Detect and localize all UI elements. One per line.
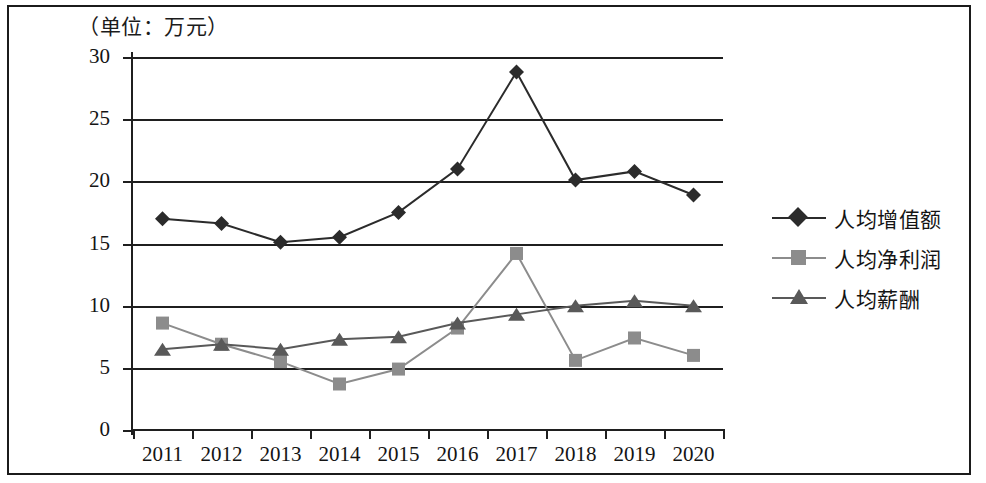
legend-symbol xyxy=(772,287,826,309)
x-axis-tick xyxy=(133,429,135,439)
x-axis-tick xyxy=(428,429,430,439)
x-axis-tick xyxy=(605,429,607,439)
x-axis-tick xyxy=(723,429,725,439)
y-axis-label: 20 xyxy=(70,170,110,191)
legend-symbol xyxy=(772,207,826,229)
legend-label: 人均增值额 xyxy=(826,203,942,233)
gridline xyxy=(133,57,723,59)
legend-item-2[interactable]: 人均净利润 xyxy=(772,238,962,278)
gridline xyxy=(133,119,723,121)
triangle-marker-icon xyxy=(790,289,808,304)
gridline xyxy=(133,181,723,183)
chart-figure: （单位：万元） 051015202530 2011201220132014201… xyxy=(0,0,986,483)
x-axis-tick xyxy=(546,429,548,439)
x-axis-tick xyxy=(487,429,489,439)
y-axis-label: 25 xyxy=(70,108,110,129)
y-axis-tick xyxy=(123,430,133,432)
y-axis-label: 15 xyxy=(70,233,110,254)
legend-symbol xyxy=(772,247,826,269)
diamond-marker-icon xyxy=(788,207,808,227)
legend-item-1[interactable]: 人均增值额 xyxy=(772,198,962,238)
chart-legend: 人均增值额人均净利润人均薪酬 xyxy=(772,198,962,318)
y-axis-tick xyxy=(123,119,133,121)
x-axis-tick xyxy=(310,429,312,439)
x-axis-tick xyxy=(192,429,194,439)
legend-label: 人均薪酬 xyxy=(826,283,920,313)
unit-caption: （单位：万元） xyxy=(78,10,229,40)
x-axis-tick xyxy=(664,429,666,439)
gridline xyxy=(133,244,723,246)
y-axis-label: 10 xyxy=(70,295,110,316)
y-axis-tick xyxy=(123,181,133,183)
square-marker-icon xyxy=(791,250,806,265)
y-axis-tick xyxy=(123,368,133,370)
y-axis-label: 5 xyxy=(70,357,110,378)
x-axis-tick xyxy=(251,429,253,439)
y-axis-tick xyxy=(123,306,133,308)
gridline xyxy=(133,306,723,308)
y-axis-tick xyxy=(123,244,133,246)
x-axis-tick xyxy=(369,429,371,439)
x-axis-label: 2020 xyxy=(659,444,729,465)
legend-label: 人均净利润 xyxy=(826,243,942,273)
legend-item-3[interactable]: 人均薪酬 xyxy=(772,278,962,318)
y-axis-label: 0 xyxy=(70,419,110,440)
gridline xyxy=(133,368,723,370)
y-axis-tick xyxy=(123,57,133,59)
y-axis-label: 30 xyxy=(70,46,110,67)
